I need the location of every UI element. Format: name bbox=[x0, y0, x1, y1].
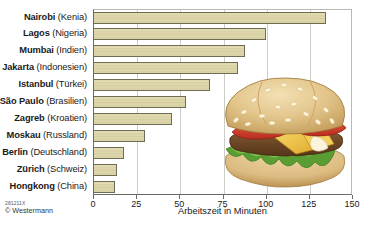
y-label-city: Nairobi bbox=[24, 12, 55, 22]
bar-jakarta[interactable] bbox=[93, 62, 238, 74]
footer-cutoff-text bbox=[4, 224, 364, 232]
y-label-country: (Deutschland) bbox=[30, 147, 87, 157]
bar-lagos[interactable] bbox=[93, 28, 266, 40]
chart-figure: Nairobi (Kenia) Lagos (Nigeria) Mumbai (… bbox=[0, 0, 371, 232]
y-label-country: (Schweiz) bbox=[47, 164, 87, 174]
y-label-berlin: Berlin (Deutschland) bbox=[0, 147, 87, 157]
y-label-city: Hongkong bbox=[10, 181, 55, 191]
y-label-lagos: Lagos (Nigeria) bbox=[0, 28, 87, 38]
y-label-city: Berlin bbox=[2, 147, 28, 157]
y-label-hongkong: Hongkong (China) bbox=[0, 181, 87, 191]
y-label-zuerich: Zürich (Schweiz) bbox=[0, 164, 87, 174]
y-label-country: (Brasilien) bbox=[46, 96, 87, 106]
y-label-city: Mumbai bbox=[19, 45, 54, 55]
bar-zuerich[interactable] bbox=[93, 164, 117, 176]
y-label-nairobi: Nairobi (Kenia) bbox=[0, 12, 87, 22]
y-label-city: Zürich bbox=[17, 164, 45, 174]
y-label-country: (Nigeria) bbox=[52, 28, 87, 38]
bar-istanbul[interactable] bbox=[93, 79, 210, 91]
y-label-mumbai: Mumbai (Indien) bbox=[0, 45, 87, 55]
y-label-country: (China) bbox=[57, 181, 87, 191]
y-label-country: (Indien) bbox=[56, 45, 87, 55]
x-axis-title: Arbeitszeit in Minuten bbox=[93, 206, 352, 216]
y-label-country: (Türkei) bbox=[56, 79, 87, 89]
y-label-city: Moskau bbox=[7, 130, 41, 140]
bar-nairobi[interactable] bbox=[93, 12, 326, 24]
y-label-moskau: Moskau (Russland) bbox=[0, 130, 87, 140]
y-label-country: (Indonesien) bbox=[37, 62, 87, 72]
credit-block: 281211X © Westermann bbox=[5, 200, 53, 215]
bar-hongkong[interactable] bbox=[93, 181, 115, 193]
y-label-city: Zagreb bbox=[14, 113, 44, 123]
y-label-city: Istanbul bbox=[18, 79, 53, 89]
y-axis-labels: Nairobi (Kenia) Lagos (Nigeria) Mumbai (… bbox=[0, 9, 90, 195]
y-label-city: Jakarta bbox=[2, 62, 34, 72]
bar-sao-paulo[interactable] bbox=[93, 96, 186, 108]
y-label-city: Lagos bbox=[23, 28, 50, 38]
y-label-country: (Kenia) bbox=[58, 12, 87, 22]
bar-zagreb[interactable] bbox=[93, 113, 172, 125]
y-label-country: (Kroatien) bbox=[47, 113, 87, 123]
y-label-city: São Paulo bbox=[0, 96, 44, 106]
bar-mumbai[interactable] bbox=[93, 45, 245, 57]
y-label-jakarta: Jakarta (Indonesien) bbox=[0, 62, 87, 72]
y-label-country: (Russland) bbox=[43, 130, 87, 140]
hamburger-illustration bbox=[218, 76, 352, 188]
credit-publisher: © Westermann bbox=[5, 206, 53, 215]
y-label-zagreb: Zagreb (Kroatien) bbox=[0, 113, 87, 123]
y-label-sao-paulo: São Paulo (Brasilien) bbox=[0, 96, 87, 106]
y-label-istanbul: Istanbul (Türkei) bbox=[0, 79, 87, 89]
bar-moskau[interactable] bbox=[93, 130, 145, 142]
bar-berlin[interactable] bbox=[93, 147, 124, 159]
